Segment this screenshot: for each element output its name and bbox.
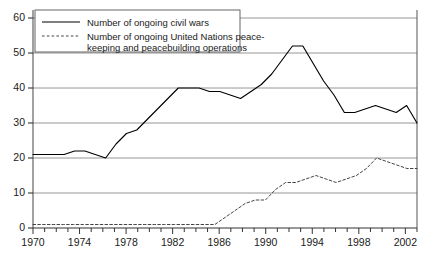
x-tick-label: 1970 xyxy=(11,237,55,248)
series-line-1 xyxy=(33,46,417,158)
y-tick-label: 20 xyxy=(0,152,25,163)
x-tick-label: 1990 xyxy=(244,237,288,248)
y-tick-label: 0 xyxy=(0,222,25,233)
x-tick-label: 1986 xyxy=(197,237,241,248)
legend-label-2: keeping and peacebuilding operations xyxy=(87,42,247,53)
legend-label-2: Number of ongoing United Nations peace- xyxy=(87,31,264,42)
data-series xyxy=(33,46,417,225)
series-line-2 xyxy=(33,158,417,225)
y-tick-label: 10 xyxy=(0,187,25,198)
x-tick-label: 1998 xyxy=(337,237,381,248)
x-tick-label: 1974 xyxy=(58,237,102,248)
legend-label-1: Number of ongoing civil wars xyxy=(87,17,209,28)
y-tick-label: 50 xyxy=(0,47,25,58)
y-tick-label: 30 xyxy=(0,117,25,128)
chart-legend: Number of ongoing civil warsNumber of on… xyxy=(35,10,264,53)
x-tick-label: 1994 xyxy=(290,237,334,248)
x-axis-ticks xyxy=(33,228,417,234)
y-tick-label: 60 xyxy=(0,12,25,23)
x-tick-label: 1982 xyxy=(151,237,195,248)
chart-container: Number of ongoing civil warsNumber of on… xyxy=(0,0,432,264)
x-tick-label: 1978 xyxy=(104,237,148,248)
y-tick-label: 40 xyxy=(0,82,25,93)
y-axis-ticks xyxy=(28,18,33,228)
x-tick-label: 2002 xyxy=(383,237,427,248)
line-chart: Number of ongoing civil warsNumber of on… xyxy=(0,0,432,264)
